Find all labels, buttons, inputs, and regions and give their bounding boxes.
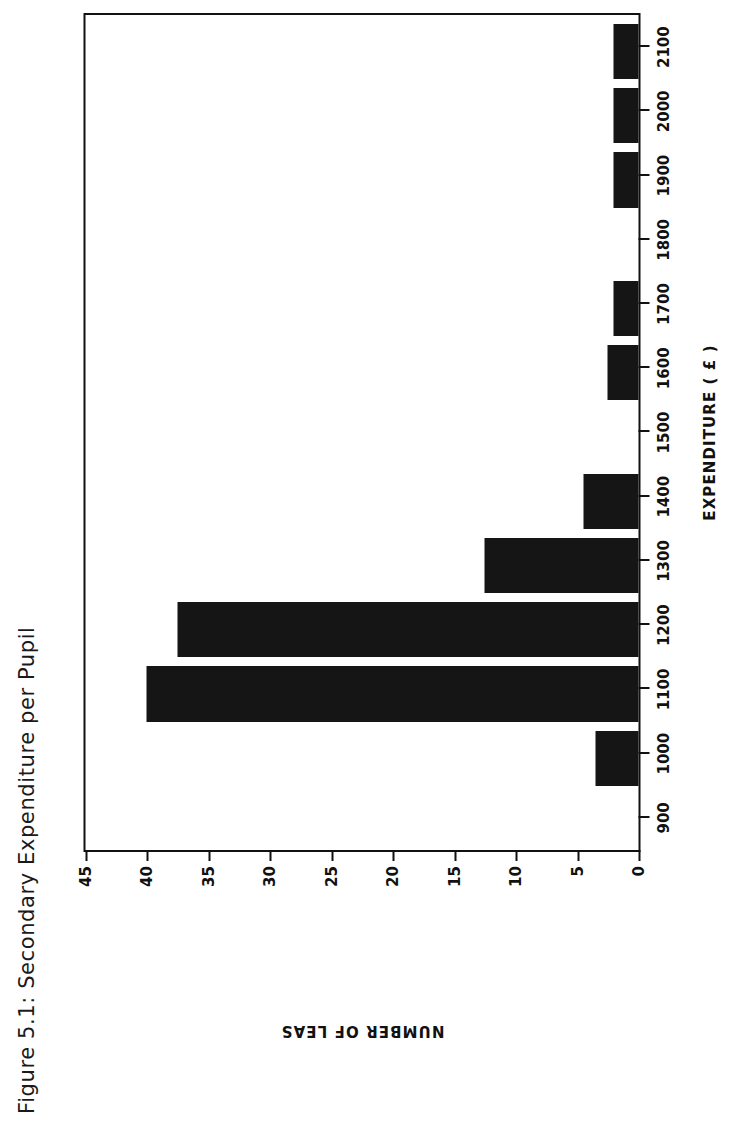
x-axis-tick bbox=[638, 623, 649, 625]
x-axis-tick-label: 1000 bbox=[654, 733, 672, 775]
x-axis-tick bbox=[638, 174, 649, 176]
y-axis-tick bbox=[269, 850, 271, 861]
bar bbox=[177, 602, 638, 657]
bar bbox=[613, 24, 638, 79]
bar bbox=[613, 88, 638, 143]
y-axis-tick bbox=[208, 850, 210, 861]
y-axis-title-text: NUMBER OF LEAS bbox=[280, 1022, 444, 1040]
x-axis-tick bbox=[638, 687, 649, 689]
x-axis-tick-label: 1200 bbox=[654, 604, 672, 646]
x-axis-tick bbox=[638, 45, 649, 47]
x-axis-tick bbox=[638, 431, 649, 433]
x-axis-tick bbox=[638, 752, 649, 754]
y-axis-tick bbox=[638, 850, 640, 861]
y-axis-tick bbox=[515, 850, 517, 861]
x-axis-tick-label: 1400 bbox=[654, 476, 672, 518]
y-axis-tick-label: 10 bbox=[506, 866, 524, 887]
y-axis-tick bbox=[577, 850, 579, 861]
y-axis-tick-label: 45 bbox=[76, 866, 94, 887]
y-axis-tick bbox=[392, 850, 394, 861]
x-axis-tick-label: 2100 bbox=[654, 26, 672, 68]
y-axis-tick-label: 5 bbox=[568, 866, 586, 876]
x-axis-tick bbox=[638, 495, 649, 497]
x-axis-tick bbox=[638, 559, 649, 561]
y-axis-tick-label: 20 bbox=[383, 866, 401, 887]
x-axis-tick-label: 1100 bbox=[654, 669, 672, 711]
y-axis-tick-label: 15 bbox=[445, 866, 463, 887]
y-axis-tick-label: 30 bbox=[260, 866, 278, 887]
x-axis-tick bbox=[638, 302, 649, 304]
rotated-figure-container: Figure 5.1: Secondary Expenditure per Pu… bbox=[0, 0, 733, 1138]
bar bbox=[613, 281, 638, 336]
y-axis-tick-label: 25 bbox=[322, 866, 340, 887]
y-axis-tick bbox=[454, 850, 456, 861]
x-axis-tick-label: 1900 bbox=[654, 155, 672, 197]
x-axis-tick-label: 1800 bbox=[654, 219, 672, 261]
y-axis-tick-label: 35 bbox=[199, 866, 217, 887]
y-axis-tick bbox=[146, 850, 148, 861]
y-axis-tick-label: 0 bbox=[629, 866, 647, 876]
bar-series bbox=[85, 15, 638, 850]
x-axis-tick-label: 1700 bbox=[654, 283, 672, 325]
figure-caption: Figure 5.1: Secondary Expenditure per Pu… bbox=[14, 626, 38, 1114]
x-axis-tick-label: 900 bbox=[654, 802, 672, 833]
x-axis-tick bbox=[638, 238, 649, 240]
x-axis-title: EXPENDITURE ( £ ) bbox=[700, 13, 718, 852]
bar bbox=[583, 474, 638, 529]
bar bbox=[484, 538, 638, 593]
y-axis-tick bbox=[85, 850, 87, 861]
plot-area: 0510152025303540459001000110012001300140… bbox=[83, 13, 640, 852]
x-axis-tick bbox=[638, 366, 649, 368]
figure: Figure 5.1: Secondary Expenditure per Pu… bbox=[0, 0, 733, 1138]
x-axis-tick-label: 1300 bbox=[654, 540, 672, 582]
bar bbox=[146, 666, 638, 721]
x-axis-tick-label: 1500 bbox=[654, 412, 672, 454]
y-axis-tick-label: 40 bbox=[137, 866, 155, 887]
x-axis-tick bbox=[638, 816, 649, 818]
y-axis-tick bbox=[331, 850, 333, 861]
bar bbox=[607, 345, 638, 400]
bar bbox=[613, 152, 638, 207]
x-axis-tick-label: 2000 bbox=[654, 90, 672, 132]
bar bbox=[595, 731, 638, 786]
y-axis-title: NUMBER OF LEAS bbox=[83, 1020, 640, 1042]
x-axis-tick-label: 1600 bbox=[654, 347, 672, 389]
x-axis-tick bbox=[638, 109, 649, 111]
